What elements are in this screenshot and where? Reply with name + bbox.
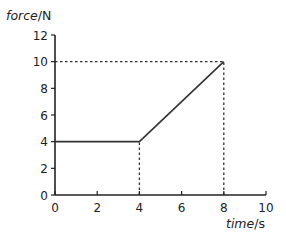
y-tick-label: 0 [40,189,48,203]
x-axis-title: time/s [226,216,265,231]
reference-lines [55,62,224,195]
x-tick-label: 8 [220,201,228,215]
y-axis-quantity: force [6,8,38,23]
data-series [55,62,224,142]
y-axis-title: force/N [6,8,51,23]
y-tick-label: 2 [40,162,48,176]
x-tick-label: 2 [93,201,101,215]
y-tick-label: 10 [33,55,48,69]
x-tick-label: 4 [136,201,144,215]
force-line [55,62,224,142]
y-tick-label: 4 [40,135,48,149]
axes [55,35,266,195]
force-time-graph: 0246810024681012 force/N time/s [0,0,286,246]
y-tick-label: 6 [40,109,48,123]
x-tick-label: 6 [178,201,186,215]
x-axis-unit: s [258,216,265,231]
x-tick-label: 10 [258,201,273,215]
y-axis-unit: N [42,8,51,23]
ticks: 0246810024681012 [33,29,274,216]
y-tick-label: 8 [40,82,48,96]
y-tick-label: 12 [33,29,48,43]
x-axis-quantity: time [226,216,255,231]
x-tick-label: 0 [51,201,59,215]
